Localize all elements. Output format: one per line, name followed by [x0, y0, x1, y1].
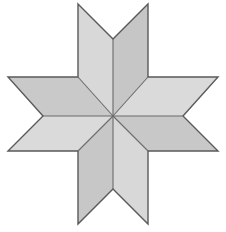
- folded-cross-figure: [0, 0, 226, 232]
- figure-canvas: [0, 0, 226, 232]
